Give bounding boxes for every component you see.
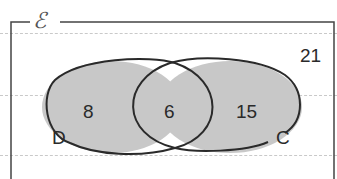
intersection-count: 6 (164, 101, 175, 123)
venn-svg (0, 0, 337, 179)
venn-diagram: ℰ 21 8 6 15 D C (0, 0, 337, 179)
outside-count: 21 (300, 45, 321, 67)
set-d-label: D (52, 127, 66, 149)
set-c-label: C (276, 127, 290, 149)
universal-set-symbol: ℰ (30, 8, 49, 33)
set-d-only-count: 8 (83, 101, 94, 123)
set-c-only-count: 15 (236, 101, 257, 123)
